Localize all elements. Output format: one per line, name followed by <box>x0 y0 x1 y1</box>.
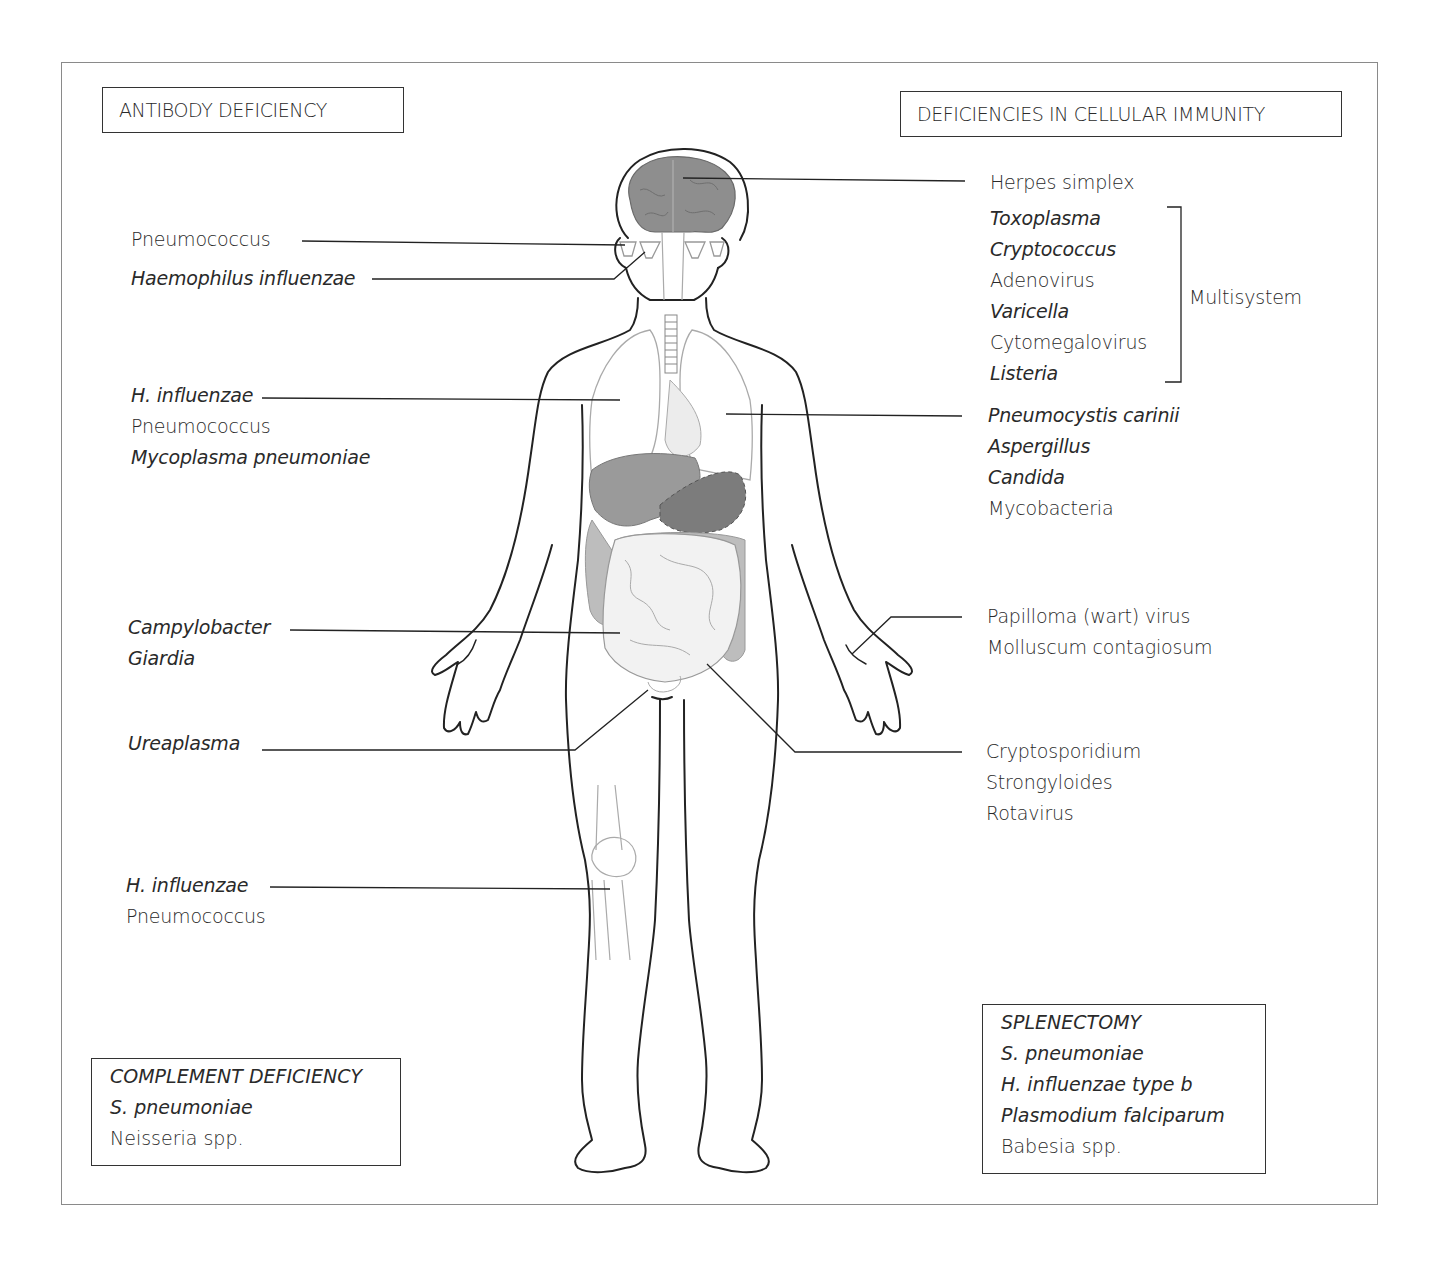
brain <box>629 157 735 233</box>
pathogen-label: Giardia <box>128 643 270 674</box>
pathogen-label: Candida <box>988 462 1179 493</box>
bracket-label: Multisystem <box>1189 282 1302 313</box>
pathogen-label: Pneumococcus <box>126 901 266 932</box>
pathogen-label: Mycobacteria <box>988 493 1179 524</box>
urogenital-pathogens: Ureaplasma <box>128 728 240 759</box>
pathogen-label: S. pneumoniae <box>1001 1038 1247 1069</box>
pathogen-label: Pneumocystis carinii <box>988 400 1179 431</box>
pathogen-label: Babesia spp. <box>1001 1131 1247 1162</box>
gut-pathogens-antibody: Campylobacter Giardia <box>128 612 270 674</box>
pathogen-label: Adenovirus <box>990 265 1147 296</box>
sinus-pathogens: Pneumococcus Haemophilus influenzae <box>131 224 355 294</box>
lung-pathogens-cellular: Pneumocystis carinii Aspergillus Candida… <box>988 400 1179 524</box>
box-title: COMPLEMENT DEFICIENCY <box>110 1061 382 1092</box>
antibody-deficiency-header: ANTIBODY DEFICIENCY <box>102 87 404 133</box>
pathogen-label: Molluscum contagiosum <box>987 632 1212 663</box>
lung-pathogens-antibody: H. influenzae Pneumococcus Mycoplasma pn… <box>131 380 370 473</box>
pathogen-label: Varicella <box>990 296 1147 327</box>
pathogen-label: Haemophilus influenzae <box>131 263 355 294</box>
pathogen-label: Pneumococcus <box>131 411 370 442</box>
multisystem-pathogens: Toxoplasma Cryptococcus Adenovirus Varic… <box>990 203 1147 389</box>
pathogen-label: Herpes simplex <box>990 167 1134 198</box>
pathogen-label: Aspergillus <box>988 431 1179 462</box>
knee-joint <box>592 785 636 960</box>
trachea <box>665 315 677 373</box>
small-intestine <box>603 534 741 682</box>
pathogen-label: Rotavirus <box>986 798 1141 829</box>
pathogen-label: Cryptococcus <box>990 234 1147 265</box>
pathogen-label: Papilloma (wart) virus <box>987 601 1212 632</box>
antibody-deficiency-title: ANTIBODY DEFICIENCY <box>119 99 327 121</box>
joint-pathogens: H. influenzae Pneumococcus <box>126 870 266 932</box>
pathogen-label: Plasmodium falciparum <box>1001 1100 1247 1131</box>
pathogen-label: Campylobacter <box>128 612 270 643</box>
splenectomy-box: SPLENECTOMY S. pneumoniae H. influenzae … <box>982 1004 1266 1174</box>
pathogen-label: H. influenzae <box>126 870 266 901</box>
pathogen-label: Strongyloides <box>986 767 1141 798</box>
pathogen-label: Toxoplasma <box>990 203 1147 234</box>
pathogen-label: Cryptosporidium <box>986 736 1141 767</box>
pathogen-label: H. influenzae type b <box>1001 1069 1247 1100</box>
pathogen-label: Listeria <box>990 358 1147 389</box>
pathogen-label: Mycoplasma pneumoniae <box>131 442 370 473</box>
multisystem-bracket-label: Multisystem <box>1189 282 1302 313</box>
pathogen-label: H. influenzae <box>131 380 370 411</box>
pathogen-label: Pneumococcus <box>131 224 355 255</box>
box-title: SPLENECTOMY <box>1001 1007 1247 1038</box>
cellular-immunity-title: DEFICIENCIES IN CELLULAR IMMUNITY <box>917 103 1265 125</box>
pathogen-label: Ureaplasma <box>128 728 240 759</box>
gut-pathogens-cellular: Cryptosporidium Strongyloides Rotavirus <box>986 736 1141 829</box>
pathogen-label: S. pneumoniae <box>110 1092 382 1123</box>
cellular-immunity-header: DEFICIENCIES IN CELLULAR IMMUNITY <box>900 91 1342 137</box>
pathogen-label: Neisseria spp. <box>110 1123 382 1154</box>
sinuses <box>620 242 724 258</box>
brain-pathogens: Herpes simplex <box>990 167 1134 198</box>
skin-pathogens: Papilloma (wart) virus Molluscum contagi… <box>987 601 1212 663</box>
complement-deficiency-box: COMPLEMENT DEFICIENCY S. pneumoniae Neis… <box>91 1058 401 1166</box>
pathogen-label: Cytomegalovirus <box>990 327 1147 358</box>
